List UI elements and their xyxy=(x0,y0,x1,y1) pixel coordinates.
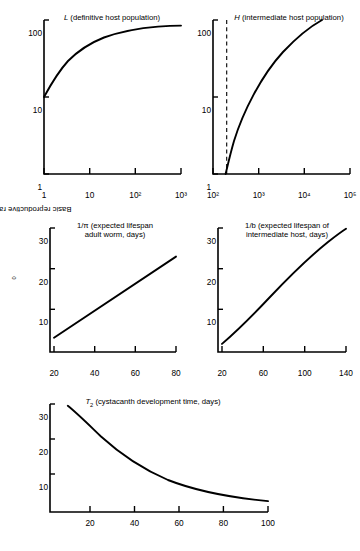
figure-panel-grid: Basic reproductive rate of the parasite,… xyxy=(0,0,360,551)
data-curve-T2 xyxy=(68,406,268,501)
y-tick-label-30-T2: 30 xyxy=(22,412,48,422)
x-tick-label-20-mu: 20 xyxy=(43,368,65,378)
chart-panel-intermediate-host-lifespan: 30 20 10 20 60 100 140 1/b (expected lif… xyxy=(208,222,350,392)
y-tick-label-10-H: 10 xyxy=(185,105,211,115)
data-curve-b xyxy=(222,229,346,344)
chart-panel-intermediate-host-population: 100 10 1 10² 10³ 10⁴ 10⁵ H (intermediate… xyxy=(203,14,351,212)
y-tick-label-10-L: 10 xyxy=(18,105,42,115)
plot-area-T2 xyxy=(40,398,272,528)
y-tick-label-20-mu: 20 xyxy=(22,277,48,287)
plot-area-b xyxy=(208,222,350,364)
x-tick-label-1e2-H: 10² xyxy=(202,190,224,200)
plot-area-L xyxy=(34,14,182,186)
y-tick-label-100-H: 100 xyxy=(185,28,211,38)
x-tick-label-140-b: 140 xyxy=(335,368,357,378)
x-tick-label-1e5-H: 10⁵ xyxy=(339,190,360,200)
y-tick-label-10-mu: 10 xyxy=(22,317,48,327)
axis-lines-mu xyxy=(50,228,176,352)
y-tick-label-20-T2: 20 xyxy=(22,447,48,457)
chart-panel-adult-worm-lifespan: 30 20 10 20 40 60 80 1/π (expected lifes… xyxy=(40,222,180,392)
y-tick-label-20-b: 20 xyxy=(190,277,216,287)
plot-area-H xyxy=(203,14,351,186)
y-tick-label-10-b: 10 xyxy=(190,317,216,327)
y-tick-label-100-L: 100 xyxy=(18,28,42,38)
x-tick-label-20-b: 20 xyxy=(211,368,233,378)
axis-lines-H xyxy=(213,20,350,174)
x-tick-label-20-T2: 20 xyxy=(79,518,101,528)
x-tick-label-40-T2: 40 xyxy=(124,518,146,528)
global-y-axis-title-subscript: 0 xyxy=(11,277,17,280)
axis-lines-b xyxy=(218,228,346,352)
x-tick-label-60-b: 60 xyxy=(252,368,274,378)
data-curve-H xyxy=(226,20,322,174)
x-tick-label-40-mu: 40 xyxy=(84,368,106,378)
x-tick-label-60-T2: 60 xyxy=(168,518,190,528)
x-tick-label-10-L: 10 xyxy=(80,190,100,200)
x-tick-label-100-T2: 100 xyxy=(256,518,280,528)
y-tick-label-30-b: 30 xyxy=(190,236,216,246)
x-tick-label-80-mu: 80 xyxy=(165,368,187,378)
y-tick-label-10-T2: 10 xyxy=(22,482,48,492)
x-tick-label-1e4-H: 10⁴ xyxy=(293,190,315,200)
plot-area-mu xyxy=(40,222,180,364)
global-y-axis-title: Basic reproductive rate of the parasite,… xyxy=(0,60,15,360)
x-tick-label-100-L: 10² xyxy=(124,190,146,200)
x-tick-label-1-L: 1 xyxy=(34,190,54,200)
x-tick-label-100-b: 100 xyxy=(294,368,316,378)
x-tick-label-60-mu: 60 xyxy=(124,368,146,378)
x-tick-label-1e3-H: 10³ xyxy=(248,190,270,200)
data-curve-L xyxy=(44,26,181,97)
chart-panel-cystacanth-development-time: 30 20 10 20 40 60 80 100 T2 (cystacanth … xyxy=(40,398,272,548)
axis-lines-L xyxy=(44,20,181,174)
y-tick-label-30-mu: 30 xyxy=(22,236,48,246)
x-tick-label-80-T2: 80 xyxy=(212,518,234,528)
data-line-mu xyxy=(54,257,176,338)
chart-panel-definitive-host-population: 100 10 1 1 10 10² 10³ L (definitive host… xyxy=(34,14,182,212)
